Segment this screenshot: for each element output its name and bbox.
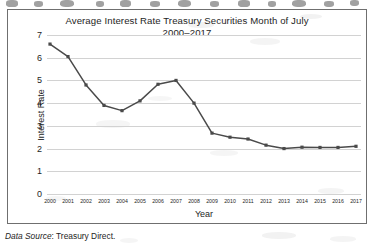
scan-artifact (210, 1, 219, 7)
y-tick-label: 0 (37, 189, 42, 199)
y-tick-label: 1 (37, 166, 42, 176)
scan-artifact (350, 0, 359, 6)
series-line (50, 44, 356, 148)
data-point-marker (192, 102, 195, 105)
x-tick-label: 2014 (296, 198, 308, 204)
x-tick-label: 2012 (260, 198, 272, 204)
scan-artifact (178, 0, 191, 7)
plot-area: 01234567 Interest Rate 20002001200220032… (47, 35, 361, 194)
data-point-marker (264, 144, 267, 147)
scan-artifact (324, 1, 334, 7)
data-point-marker (84, 83, 87, 86)
x-tick-label: 2016 (332, 198, 344, 204)
x-tick-label: 2006 (152, 198, 164, 204)
y-tick-label: 5 (37, 75, 42, 85)
data-point-marker (336, 146, 339, 149)
data-point-marker (246, 137, 249, 140)
scan-artifact (238, 0, 250, 7)
x-tick-label: 2017 (350, 198, 362, 204)
x-tick-label: 2007 (170, 198, 182, 204)
chart-figure-frame: Average Interest Rate Treasury Securitie… (7, 9, 367, 224)
data-point-marker (300, 146, 303, 149)
x-tick-label: 2000 (44, 198, 56, 204)
data-point-marker (66, 55, 69, 58)
y-tick-label: 2 (37, 144, 42, 154)
data-point-marker (318, 146, 321, 149)
data-source-caption: Data Source: Treasury Direct. (5, 231, 115, 241)
scan-artifact (268, 1, 276, 7)
x-tick-label: 2005 (134, 198, 146, 204)
data-point-marker (354, 145, 357, 148)
x-tick-label: 2011 (242, 198, 253, 204)
chart-title-line-1: Average Interest Rate Treasury Securitie… (65, 15, 308, 26)
x-axis-title: Year (47, 209, 361, 219)
x-tick-label: 2003 (98, 198, 110, 204)
scan-artifact-strip (0, 0, 380, 8)
scan-artifact (6, 0, 18, 7)
x-tick-label: 2001 (62, 198, 74, 204)
data-point-marker (102, 104, 105, 107)
scan-artifact (292, 0, 306, 7)
line-series (47, 35, 361, 194)
x-tick-label: 2004 (116, 198, 128, 204)
y-tick-label: 6 (37, 53, 42, 63)
data-point-marker (48, 42, 51, 45)
scan-speck (120, 238, 138, 243)
scan-artifact (150, 1, 160, 7)
x-tick-label: 2010 (224, 198, 236, 204)
gridline (47, 194, 361, 195)
data-source-label: Data Source (5, 231, 52, 241)
x-tick-label: 2009 (206, 198, 218, 204)
data-point-marker (138, 99, 141, 102)
scan-artifact (120, 0, 131, 7)
scan-speck (330, 236, 356, 242)
y-tick-label: 7 (37, 30, 42, 40)
x-tick-label: 2015 (314, 198, 326, 204)
y-axis-title: Interest Rate (36, 89, 46, 141)
scan-speck (262, 232, 296, 239)
x-tick-label: 2013 (278, 198, 290, 204)
scan-artifact (34, 1, 43, 7)
data-point-marker (174, 79, 177, 82)
data-point-marker (120, 109, 123, 112)
x-tick-label: 2002 (80, 198, 92, 204)
data-point-marker (156, 83, 159, 86)
x-tick-label: 2008 (188, 198, 200, 204)
scan-artifact (96, 1, 104, 7)
data-point-marker (228, 136, 231, 139)
data-source-value: : Treasury Direct. (52, 231, 116, 241)
data-point-marker (210, 132, 213, 135)
scan-artifact (60, 0, 74, 7)
data-point-marker (282, 147, 285, 150)
